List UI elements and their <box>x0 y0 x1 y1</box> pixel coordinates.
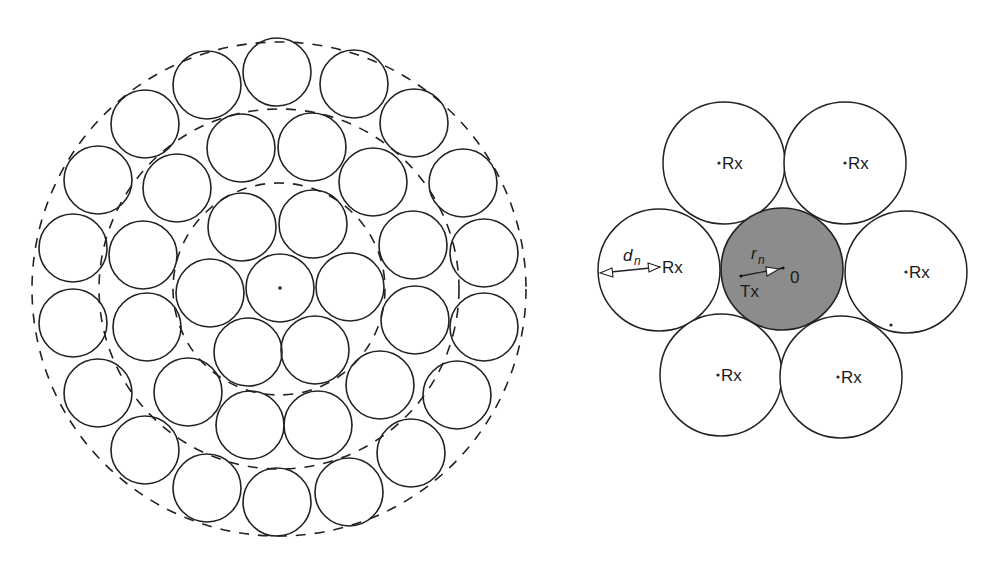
rx-label-right: Rx <box>904 263 930 282</box>
cell <box>281 316 349 384</box>
cell <box>173 454 241 522</box>
cell <box>423 361 491 429</box>
cell <box>278 113 346 181</box>
cell <box>154 358 222 426</box>
cell <box>143 154 211 222</box>
hexagonal-cell-packing <box>32 38 526 536</box>
cell <box>39 214 107 282</box>
packed-cells <box>39 38 518 536</box>
cell <box>243 468 311 536</box>
svg-text:Tx: Tx <box>740 282 759 301</box>
svg-text:n: n <box>758 253 765 267</box>
cell <box>111 90 179 158</box>
cell <box>176 259 244 327</box>
cell <box>381 286 449 354</box>
center-dot <box>278 286 282 290</box>
cell <box>339 148 407 216</box>
rx-label-bottom-right: Rx <box>836 368 862 387</box>
cell <box>64 146 132 214</box>
stray-dot <box>889 323 892 326</box>
cell <box>214 318 282 386</box>
cell <box>284 391 352 459</box>
rx-label-top-left: Rx <box>717 154 743 173</box>
svg-text:d: d <box>623 246 633 265</box>
cell <box>429 149 497 217</box>
svg-text:n: n <box>634 254 641 268</box>
cell <box>450 293 518 361</box>
tx-rx-neighborhood: Rx Rx Rx Rx Rx d n Rx <box>598 102 967 438</box>
svg-text:Rx: Rx <box>662 258 683 277</box>
svg-text:0: 0 <box>790 268 799 287</box>
cell <box>279 190 347 258</box>
svg-text:Rx: Rx <box>722 154 743 173</box>
cell <box>109 221 177 289</box>
cell <box>208 193 276 261</box>
rx-label-bottom-left: Rx <box>716 366 742 385</box>
rx-label-top-right: Rx <box>843 154 869 173</box>
cell <box>207 114 275 182</box>
cell <box>380 89 448 157</box>
cell <box>320 50 388 118</box>
cell <box>216 391 284 459</box>
cell <box>113 293 181 361</box>
cell <box>64 359 132 427</box>
cell <box>243 38 311 106</box>
svg-text:Rx: Rx <box>841 368 862 387</box>
tx-dot <box>739 274 742 277</box>
cell <box>39 289 107 357</box>
cell <box>173 51 241 119</box>
svg-text:Rx: Rx <box>721 366 742 385</box>
cell <box>316 253 384 321</box>
cell <box>111 416 179 484</box>
origin-dot <box>781 266 784 269</box>
rx-cell <box>598 209 720 331</box>
cell <box>379 211 447 279</box>
svg-text:Rx: Rx <box>909 263 930 282</box>
cell <box>450 219 518 287</box>
cell <box>315 458 383 526</box>
cell <box>377 419 445 487</box>
diagram-canvas: Rx Rx Rx Rx Rx d n Rx <box>0 0 1002 576</box>
svg-text:Rx: Rx <box>848 154 869 173</box>
cell <box>346 351 414 419</box>
